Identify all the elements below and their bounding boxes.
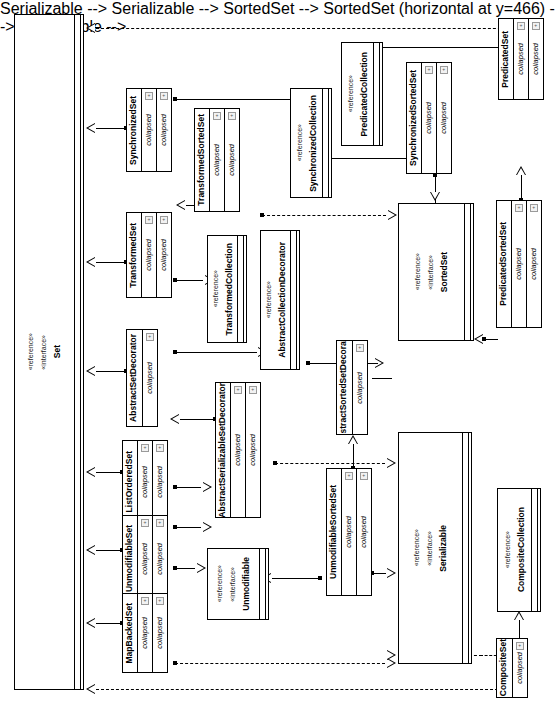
set-rail2 xyxy=(80,15,83,689)
node-compositeset[interactable]: CompositeSet + collapsed xyxy=(496,638,528,698)
arrowhead-unmodifiable-1 xyxy=(197,563,206,573)
compositeset-collapsed-1: collapsed xyxy=(516,652,524,684)
node-set[interactable]: «reference» «interface» Set xyxy=(14,14,84,690)
compositeset-name: CompositeSet xyxy=(499,639,508,696)
node-synchronizedsortedset[interactable]: SynchronizedSortedSet + collapsed + coll… xyxy=(406,62,452,174)
node-unmodifiablesortedset[interactable]: UnmodifiableSortedSet + collapsed + coll… xyxy=(326,468,372,596)
unmodifiableset-collapsed-2: collapsed xyxy=(156,543,164,575)
node-transformedsortedset[interactable]: TransformedSortedSet + collapsed + colla… xyxy=(194,108,240,212)
node-transformedcollection[interactable]: «reference» TransformedCollection xyxy=(207,235,247,343)
abstractcollectiondecorator-name: AbstractCollectionDecorator xyxy=(278,242,287,358)
predicatedset-compartment-1: + collapsed xyxy=(514,19,528,99)
arrowhead-abssetdec-1 xyxy=(170,414,179,424)
unmodifiableset-compartment-1: + collapsed xyxy=(138,516,152,602)
compositecollection-labels: «reference» CompositeCollection xyxy=(498,489,531,611)
abstractcollectiondecorator-rail2 xyxy=(296,231,299,369)
node-abstractcollectiondecorator[interactable]: «reference» AbstractCollectionDecorator xyxy=(260,230,300,370)
node-predicatedset[interactable]: PredicatedSet + collapsed + collapsed xyxy=(498,18,544,100)
node-synchronizedcollection[interactable]: «reference» SynchronizedCollection xyxy=(290,88,332,198)
edge-synchronizedset-to-set xyxy=(96,128,126,129)
edge-listorderedset-to-set xyxy=(96,472,122,473)
predicatedsortedset-compartment-2: + collapsed xyxy=(527,201,541,327)
abstractserializablesetdecorator-name: AbstractSerializableSetDecorator xyxy=(218,383,227,517)
mapbackedset-compartment-1: + collapsed xyxy=(138,594,152,672)
edge-unmodifiableset-to-abstractserializable xyxy=(175,527,201,528)
abstractserializablesetdecorator-collapsed-2: collapsed xyxy=(249,434,257,466)
abstractsortedsetdecorator-compartment-1: + collapsed xyxy=(353,341,368,434)
node-unmodifiableset[interactable]: UnmodifiableSet + collapsed + collapsed xyxy=(122,515,168,603)
transformedsortedset-compartment-2: + collapsed xyxy=(225,109,239,211)
arrowhead-transformedset xyxy=(176,200,185,210)
unmodifiableset-collapsed-1: collapsed xyxy=(141,543,149,575)
listorderedset-collapsed-1: collapsed xyxy=(141,466,149,498)
visibility-plus-icon: + xyxy=(213,112,221,120)
node-abstractsortedsetdecorator[interactable]: AbstractSortedSetDecorator + collapsed xyxy=(336,340,368,435)
node-unmodifiable[interactable]: «reference» «interface» Unmodifiable xyxy=(207,548,269,620)
node-synchronizedset[interactable]: SynchronizedSet + collapsed + collapsed xyxy=(126,88,172,172)
node-abstractsetdecorator[interactable]: AbstractSetDecorator + collapsed xyxy=(126,329,158,427)
unmodifiable-rail2 xyxy=(265,549,268,619)
abstractsetdecorator-name: AbstractSetDecorator xyxy=(129,334,138,422)
edge-predicatedsortedset-to-sortedset xyxy=(484,339,498,340)
node-predicatedsortedset[interactable]: PredicatedSortedSet + collapsed + collap… xyxy=(496,200,542,328)
abstractsetdecorator-compartment-1: + collapsed xyxy=(143,330,158,426)
edge-unmodifiablesortedset-to-abstractsortedsetdecorator xyxy=(353,444,354,468)
edge-predicatedset-to-set xyxy=(96,28,516,29)
arrowhead-set-6 xyxy=(86,618,95,628)
abstractserializablesetdecorator-name-compartment: AbstractSerializableSetDecorator xyxy=(216,383,231,517)
synchronizedsortedset-compartment-2: + collapsed xyxy=(437,63,451,173)
visibility-plus-icon: + xyxy=(234,386,242,394)
arrowhead-serializable-2 xyxy=(387,568,396,578)
visibility-plus-icon: + xyxy=(440,66,448,74)
serializable-stereotype-reference: «reference» xyxy=(413,529,420,566)
edge-abstractsetdecorator-to-set xyxy=(96,371,126,372)
visibility-plus-icon: + xyxy=(532,22,540,30)
edge-abstractsetdecorator-to-abstractcollectiondecorator xyxy=(175,352,257,353)
listorderedset-compartment-1: + collapsed xyxy=(138,441,152,523)
abstractserializablesetdecorator-compartment-2: + collapsed xyxy=(246,383,260,517)
node-mapbackedset[interactable]: MapBackedSet + collapsed + collapsed xyxy=(122,593,168,673)
visibility-plus-icon: + xyxy=(249,386,257,394)
edge-dot xyxy=(273,461,277,465)
synchronizedsortedset-name: SynchronizedSortedSet xyxy=(409,70,418,166)
set-labels: «reference» «interface» Set xyxy=(15,15,74,689)
node-transformedset[interactable]: TransformedSet + collapsed + collapsed xyxy=(126,212,172,298)
edge-dot xyxy=(173,485,177,489)
node-sortedset[interactable]: «reference» «interface» SortedSet xyxy=(398,203,474,341)
edge-dot xyxy=(306,361,310,365)
visibility-plus-icon: + xyxy=(156,519,164,527)
unmodifiableset-compartment-2: + collapsed xyxy=(153,516,167,602)
edge-synchronizedsortedset-to-synchronizedcollection xyxy=(333,158,361,159)
compositeset-name-compartment: CompositeSet xyxy=(497,639,513,697)
serializable-labels: «reference» «interface» Serializable xyxy=(399,433,462,663)
abstractserializablesetdecorator-collapsed-1: collapsed xyxy=(234,434,242,466)
transformedcollection-rail2 xyxy=(243,236,246,342)
edge-dot xyxy=(173,566,177,570)
unmodifiablesortedset-name-compartment: UnmodifiableSortedSet xyxy=(327,469,342,595)
synchronizedsortedset-compartment-1: + collapsed xyxy=(422,63,436,173)
set-stereotype-interface: «interface» xyxy=(40,335,47,370)
node-predicatedcollection[interactable]: «reference» PredicatedCollection xyxy=(341,42,383,146)
transformedset-name: TransformedSet xyxy=(129,223,138,288)
unmodifiable-labels: «reference» «interface» Unmodifiable xyxy=(208,549,259,619)
node-abstractserializablesetdecorator[interactable]: AbstractSerializableSetDecorator + colla… xyxy=(215,382,261,518)
abstractsortedsetdecorator-collapsed-1: collapsed xyxy=(356,372,364,404)
visibility-plus-icon: + xyxy=(141,444,149,452)
transformedsortedset-name-compartment: TransformedSortedSet xyxy=(195,109,210,211)
transformedset-collapsed-2: collapsed xyxy=(160,239,168,271)
predicatedset-name: PredicatedSet xyxy=(501,31,510,88)
serializable-name: Serializable xyxy=(439,525,448,572)
node-listorderedset[interactable]: ListOrderedSet + collapsed + collapsed xyxy=(122,440,168,524)
unmodifiablesortedset-name: UnmodifiableSortedSet xyxy=(329,485,338,579)
mapbackedset-collapsed-2: collapsed xyxy=(156,617,164,649)
edge-dot xyxy=(260,213,264,217)
synchronizedsortedset-collapsed-1: collapsed xyxy=(425,102,433,134)
node-compositecollection[interactable]: «reference» CompositeCollection xyxy=(497,488,541,612)
edge-predicatedset-to-predicatedcollection xyxy=(370,47,512,48)
node-serializable[interactable]: «reference» «interface» Serializable xyxy=(398,432,472,664)
predicatedset-collapsed-2: collapsed xyxy=(532,43,540,75)
transformedsortedset-compartment-1: + collapsed xyxy=(210,109,224,211)
sortedset-rail2 xyxy=(470,204,473,340)
listorderedset-name-compartment: ListOrderedSet xyxy=(123,441,138,523)
predicatedsortedset-name: PredicatedSortedSet xyxy=(499,222,508,306)
